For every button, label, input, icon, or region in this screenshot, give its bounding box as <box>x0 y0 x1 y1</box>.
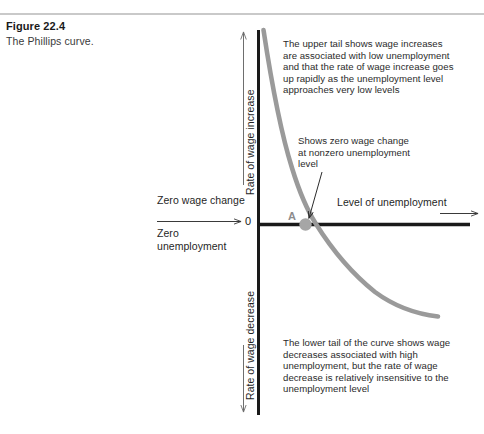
annotation-lower-tail: The lower tail of the curve shows wage d… <box>283 337 469 395</box>
point-a-callout-arrow <box>309 172 322 218</box>
origin-note-zero-unemployment: Zero unemployment <box>157 227 249 253</box>
annotation-point-callout: Shows zero wage change at nonzero unempl… <box>298 135 418 170</box>
origin-tick-label: 0 <box>245 215 251 227</box>
point-a-label: A <box>288 210 296 222</box>
y-axis-negative-label: Rate of wage decrease <box>244 291 256 400</box>
point-a-marker <box>299 218 311 230</box>
figure-page: Figure 22.4 The Phillips curve. <box>0 0 484 434</box>
y-axis-positive-label: Rate of wage increase <box>244 89 256 195</box>
x-axis-label: Level of unemployment <box>337 196 457 209</box>
annotation-upper-tail: The upper tail shows wage increases are … <box>283 38 459 96</box>
origin-note-zero-wage: Zero wage change <box>157 194 245 207</box>
